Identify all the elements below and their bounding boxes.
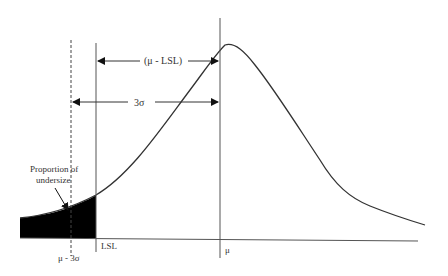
- proportion-pointer-arrow: [55, 188, 68, 210]
- process-capability-diagram: (μ - LSL) 3σ Proportion of undersize LSL…: [0, 0, 448, 276]
- lsl-label: LSL: [101, 241, 117, 251]
- proportion-undersize-label-2: undersize: [36, 175, 70, 185]
- mu-minus-lsl-label: (μ - LSL): [144, 55, 182, 67]
- mu-minus-3sigma-label: μ - 3σ: [58, 253, 80, 263]
- mu-label: μ: [225, 245, 230, 255]
- three-sigma-label: 3σ: [134, 97, 145, 108]
- proportion-undersize-label-1: Proportion of: [30, 164, 78, 174]
- x-axis: [20, 238, 418, 241]
- distribution-curve: [20, 44, 425, 225]
